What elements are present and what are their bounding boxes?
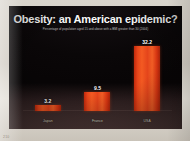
bar-france xyxy=(84,92,110,111)
corner-page-mark: 210 xyxy=(3,135,9,139)
bar-japan xyxy=(35,105,61,111)
bar-usa xyxy=(134,46,160,111)
bar-column-usa: 32.2 USA xyxy=(134,35,160,111)
bar-label-france: France xyxy=(78,119,116,123)
bar-column-japan: 3.2 Japan xyxy=(35,35,61,111)
slide-subtitle: Percentage of population aged 15 and abo… xyxy=(9,27,182,31)
bar-value-france: 9.5 xyxy=(94,85,101,91)
slide-title: Obesity: an American epidemic? xyxy=(9,13,182,25)
bar-value-usa: 32.2 xyxy=(142,39,152,45)
bar-label-usa: USA xyxy=(128,119,166,123)
bar-label-japan: Japan xyxy=(29,119,67,123)
photograph-frame: Obesity: an American epidemic? Percentag… xyxy=(0,0,190,141)
presentation-slide: Obesity: an American epidemic? Percentag… xyxy=(9,6,182,129)
bar-column-france: 9.5 France xyxy=(84,35,110,111)
bar-group: 3.2 Japan 9.5 France 32.2 USA xyxy=(23,35,172,111)
bar-value-japan: 3.2 xyxy=(44,98,51,104)
bar-chart: 3.2 Japan 9.5 France 32.2 USA xyxy=(23,34,172,125)
